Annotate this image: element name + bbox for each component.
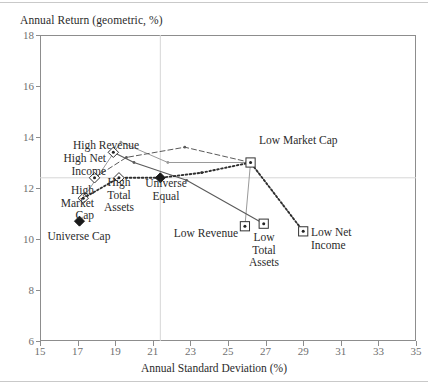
x-axis-label: Annual Standard Deviation (%) xyxy=(0,362,428,374)
x-tick-mark xyxy=(416,341,417,346)
bottom-divider xyxy=(0,381,428,382)
top-divider xyxy=(0,2,428,3)
x-tick-mark xyxy=(40,341,41,346)
y-tick-mark xyxy=(36,35,41,36)
y-tick-mark xyxy=(36,137,41,138)
x-tick-label: 17 xyxy=(64,345,92,357)
x-tick-label: 33 xyxy=(364,345,392,357)
y-tick-label: 8 xyxy=(8,284,34,296)
y-tick-label: 10 xyxy=(8,233,34,245)
x-tick-label: 35 xyxy=(402,345,428,357)
x-tick-label: 23 xyxy=(176,345,204,357)
point-label-low-market-cap: Low Market Cap xyxy=(259,134,338,147)
x-tick-mark xyxy=(266,341,267,346)
x-tick-label: 15 xyxy=(26,345,54,357)
y-tick-label: 18 xyxy=(8,29,34,41)
x-tick-label: 25 xyxy=(214,345,242,357)
y-tick-label: 16 xyxy=(8,80,34,92)
x-tick-label: 29 xyxy=(289,345,317,357)
chart-canvas xyxy=(40,35,416,341)
x-tick-mark xyxy=(115,341,116,346)
point-label-high-revenue: High Revenue xyxy=(73,139,139,152)
y-tick-mark xyxy=(36,239,41,240)
x-tick-mark xyxy=(153,341,154,346)
y-tick-mark xyxy=(36,86,41,87)
x-tick-mark xyxy=(228,341,229,346)
point-label-low-total-assets: Low Total Assets xyxy=(249,231,279,269)
point-label-universe-equal: Universe Equal xyxy=(145,177,187,202)
y-tick-mark xyxy=(36,290,41,291)
point-label-universe-cap: Universe Cap xyxy=(48,230,111,243)
y-tick-label: 12 xyxy=(8,182,34,194)
y-axis-label: Annual Return (geometric, %) xyxy=(20,14,163,26)
x-tick-label: 27 xyxy=(252,345,280,357)
x-tick-mark xyxy=(78,341,79,346)
gridlines xyxy=(40,35,416,341)
x-tick-label: 19 xyxy=(101,345,129,357)
y-tick-label: 14 xyxy=(8,131,34,143)
x-tick-mark xyxy=(341,341,342,346)
y-tick-mark xyxy=(36,188,41,189)
point-label-low-net-income: Low Net Income xyxy=(311,226,352,251)
x-tick-mark xyxy=(190,341,191,346)
x-tick-label: 21 xyxy=(139,345,167,357)
point-label-high-market-cap: High Market Cap xyxy=(61,184,94,222)
point-label-high-total-assets: High Total Assets xyxy=(104,176,134,214)
x-tick-label: 31 xyxy=(327,345,355,357)
plot-area xyxy=(40,35,416,341)
point-label-low-revenue: Low Revenue xyxy=(174,227,238,240)
x-tick-mark xyxy=(378,341,379,346)
x-tick-mark xyxy=(303,341,304,346)
point-label-high-net-income: High Net Income xyxy=(64,152,106,177)
chart-figure: Annual Return (geometric, %) Annual Stan… xyxy=(0,0,428,384)
